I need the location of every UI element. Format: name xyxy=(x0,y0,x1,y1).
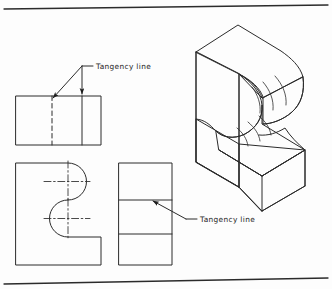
tangency-line-label-bottom: Tangency line xyxy=(199,215,255,224)
lower-arc-centerlines xyxy=(44,199,90,240)
iso-lower-curved-face xyxy=(216,105,305,176)
iso-lower-top-face xyxy=(219,128,305,176)
bottom-leader-group xyxy=(153,201,197,219)
top-view xyxy=(16,96,101,145)
iso-lower-front-face xyxy=(239,144,305,211)
bottom-leader-arm xyxy=(153,201,186,219)
iso-top-face xyxy=(196,25,303,98)
side-view-outline xyxy=(119,163,172,265)
front-view xyxy=(16,161,101,265)
iso-upper-end-cap xyxy=(263,77,304,124)
iso-edge-lower-top-right xyxy=(262,150,305,176)
iso-edge-lower-top-left xyxy=(219,150,262,176)
upper-arc-centerlines xyxy=(44,161,90,202)
iso-edge-bottom-left xyxy=(196,162,239,187)
top-rule xyxy=(4,5,328,9)
iso-left-face xyxy=(196,52,239,187)
front-view-profile xyxy=(16,163,101,265)
tangency-line-label-top: Tangency line xyxy=(95,62,151,71)
iso-edge-bottom-right xyxy=(262,186,305,211)
drawing-sheet: Tangency line Tangency line xyxy=(0,0,332,289)
side-view xyxy=(119,163,172,265)
top-leader-arm-left xyxy=(53,66,82,98)
top-view-outline xyxy=(16,96,101,145)
top-leader-group xyxy=(53,66,93,98)
technical-drawing-canvas: Tangency line Tangency line xyxy=(0,0,332,289)
bottom-rule xyxy=(4,278,328,284)
iso-edge-bottom-front xyxy=(239,187,262,211)
iso-lower-contour-lines xyxy=(237,116,271,146)
iso-lower-left-face xyxy=(196,119,239,187)
isometric-view xyxy=(196,25,305,211)
